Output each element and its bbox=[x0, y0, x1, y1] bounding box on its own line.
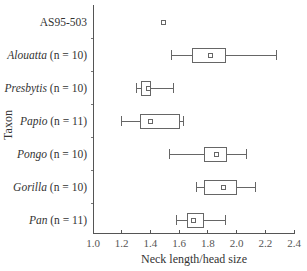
sample-size: (n = 10) bbox=[47, 181, 87, 194]
box bbox=[205, 180, 237, 194]
box-group bbox=[161, 20, 165, 24]
y-axis-label: Taxon bbox=[1, 110, 15, 140]
category-label: Alouatta (n = 10) bbox=[6, 49, 87, 62]
category-labels: AS95-503Alouatta (n = 10)Presbytis (n = … bbox=[4, 16, 88, 227]
mean-marker bbox=[192, 218, 196, 222]
box-group bbox=[196, 180, 255, 194]
taxon-name: Presbytis bbox=[4, 82, 48, 95]
taxon-name: Pan bbox=[28, 214, 48, 226]
mean-marker bbox=[147, 86, 151, 90]
mean-marker bbox=[222, 185, 226, 189]
taxon-name: Gorilla bbox=[13, 181, 47, 193]
box-group bbox=[136, 81, 173, 95]
taxon-name: Alouatta bbox=[6, 49, 47, 61]
category-label: AS95-503 bbox=[40, 16, 88, 28]
mean-marker bbox=[214, 152, 218, 156]
category-label: Papio (n = 11) bbox=[19, 115, 87, 128]
sample-size: (n = 10) bbox=[47, 49, 87, 62]
x-axis-label: Neck length/head size bbox=[141, 252, 247, 266]
taxon-name: Pongo bbox=[16, 148, 47, 161]
taxon-name: AS95-503 bbox=[40, 16, 88, 28]
x-tick-label: 2.4 bbox=[287, 237, 301, 249]
category-label: Gorilla (n = 10) bbox=[13, 181, 87, 194]
x-tick-label: 1.0 bbox=[86, 237, 100, 249]
box-group bbox=[169, 147, 247, 161]
sample-size: (n = 10) bbox=[47, 148, 87, 161]
axes bbox=[93, 5, 295, 233]
sample-size: (n = 11) bbox=[47, 214, 87, 227]
x-tick-label: 1.6 bbox=[172, 237, 186, 249]
mean-marker bbox=[209, 53, 213, 57]
box-group bbox=[176, 213, 225, 227]
category-label: Pan (n = 11) bbox=[28, 214, 87, 227]
box-group bbox=[172, 48, 277, 62]
category-label: Pongo (n = 10) bbox=[16, 148, 87, 161]
mean-marker bbox=[148, 119, 152, 123]
sample-size: (n = 10) bbox=[47, 82, 87, 95]
boxes bbox=[122, 20, 277, 227]
x-tick-label: 1.4 bbox=[144, 237, 158, 249]
data-point bbox=[161, 20, 165, 24]
category-label: Presbytis (n = 10) bbox=[4, 82, 88, 95]
sample-size: (n = 11) bbox=[47, 115, 87, 128]
box bbox=[140, 114, 179, 128]
taxon-name: Papio bbox=[19, 115, 48, 128]
x-tick-label: 1.8 bbox=[201, 237, 215, 249]
box-group bbox=[122, 114, 184, 128]
x-tick-label: 1.2 bbox=[115, 237, 129, 249]
boxplot-chart: 1.01.21.41.61.82.02.22.4 AS95-503Alouatt… bbox=[0, 0, 307, 271]
x-tick-label: 2.2 bbox=[258, 237, 272, 249]
x-tick-label: 2.0 bbox=[230, 237, 244, 249]
